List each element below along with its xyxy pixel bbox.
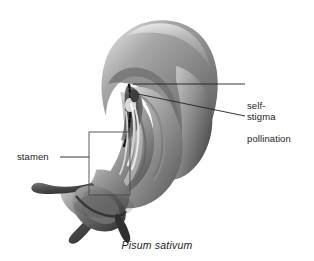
botanical-figure: self- pollination stigma stamen Pisum sa… (0, 0, 314, 261)
species-caption: Pisum sativum (0, 239, 314, 251)
label-self-pollination-line1: self- (247, 100, 291, 111)
label-self-pollination: self- pollination (247, 78, 291, 166)
label-stigma: stigma (247, 111, 276, 122)
base-shadow (74, 194, 134, 218)
label-self-pollination-line2: pollination (247, 133, 291, 144)
label-stamen: stamen (17, 151, 49, 162)
